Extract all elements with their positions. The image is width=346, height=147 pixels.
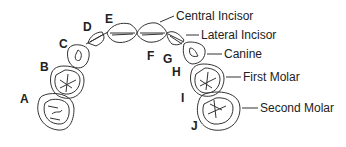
tooth-canine-left: [67, 45, 89, 68]
label-central-incisor: Central Incisor: [176, 10, 253, 22]
tooth-first-molar-right: [191, 64, 225, 96]
tooth-second-molar-right: [197, 92, 240, 130]
tooth-lateral-incisor-right: [167, 32, 184, 45]
letter-H: H: [172, 66, 181, 78]
label-first-molar: First Molar: [243, 71, 300, 83]
label-lateral-incisor: Lateral Incisor: [201, 29, 276, 41]
tooth-central-incisor-right: [137, 23, 167, 42]
letter-J: J: [191, 120, 198, 132]
letter-G: G: [163, 53, 172, 65]
tooth-second-molar-left: [38, 94, 74, 131]
tooth-central-incisor-left: [107, 23, 137, 42]
tooth-first-molar-left: [51, 66, 85, 98]
label-canine: Canine: [224, 48, 262, 60]
leader-central-incisor: [160, 16, 174, 22]
letter-A: A: [20, 93, 29, 105]
letter-I: I: [181, 92, 184, 104]
letter-D: D: [83, 21, 92, 33]
letter-C: C: [59, 38, 68, 50]
label-second-molar: Second Molar: [260, 102, 334, 114]
tooth-lateral-incisor-left: [86, 32, 108, 46]
letter-E: E: [105, 13, 113, 25]
letter-B: B: [40, 61, 49, 73]
letter-F: F: [147, 50, 154, 62]
tooth-canine-right: [183, 42, 205, 64]
